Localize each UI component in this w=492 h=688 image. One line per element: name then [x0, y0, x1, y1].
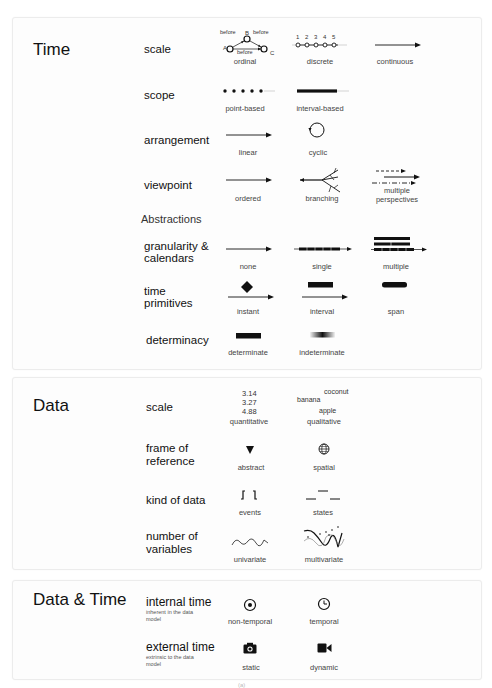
- caption-discrete: discrete: [307, 57, 333, 66]
- dim-label-data-scale: scale: [146, 401, 173, 414]
- quant-value-3: 4.88: [242, 408, 257, 415]
- interval-based-icon: [295, 87, 351, 95]
- discrete-tick-1: 1: [296, 34, 299, 41]
- caption-multiple-granularity: multiple: [383, 262, 409, 271]
- ordered-arrow-icon: [226, 176, 272, 184]
- dim-label-arrangement: arrangement: [144, 134, 209, 147]
- granularity-single-icon: [294, 245, 352, 253]
- internal-time-note-line1: inherent in the data: [146, 609, 193, 616]
- caption-dynamic: dynamic: [310, 663, 338, 672]
- caption-static: static: [242, 663, 260, 672]
- caption-abstract: abstract: [238, 463, 265, 472]
- quant-value-2: 3.27: [242, 399, 257, 406]
- dim-label-internal-time: internal time: [146, 596, 211, 609]
- caption-determinate: determinate: [228, 348, 268, 357]
- caption-non-temporal: non-temporal: [228, 617, 272, 626]
- dim-label-determinacy: determinacy: [146, 334, 209, 347]
- ordinal-edge-label-bottom: before: [237, 49, 253, 56]
- dim-label-granularity-line2: calendars: [144, 252, 194, 265]
- caption-quantitative: quantitative: [230, 417, 268, 426]
- granularity-multiple-icon: [371, 236, 427, 254]
- discrete-tick-3: 3: [314, 34, 317, 41]
- univariate-wave-icon: [231, 534, 269, 548]
- quant-value-1: 3.14: [242, 390, 257, 397]
- caption-point-based: point-based: [225, 104, 264, 113]
- clock-icon: [317, 597, 331, 611]
- caption-events: events: [239, 508, 261, 517]
- section-title-data: Data: [33, 396, 69, 416]
- figure-mark: (a): [238, 682, 245, 688]
- abstract-triangle-icon: [245, 445, 255, 455]
- caption-single: single: [312, 262, 332, 271]
- qual-value-apple: apple: [319, 407, 336, 414]
- ordinal-edge-label-right: before: [253, 29, 269, 36]
- discrete-tick-4: 4: [323, 34, 326, 41]
- external-time-note-line1: extrinsic to the data: [146, 654, 194, 661]
- dim-label-kind-of-data: kind of data: [146, 494, 205, 507]
- dim-label-frame-line1: frame of: [146, 442, 188, 455]
- video-camera-icon: [317, 643, 332, 653]
- ordinal-node-b: B: [245, 30, 249, 37]
- caption-ordinal: ordinal: [234, 57, 257, 66]
- caption-branching: branching: [306, 194, 339, 203]
- dim-label-primitives-line2: primitives: [144, 297, 193, 310]
- dim-label-time-scale: scale: [144, 43, 171, 56]
- point-based-icon: [220, 87, 276, 95]
- caption-spatial: spatial: [313, 463, 335, 472]
- granularity-none-icon: [226, 245, 272, 253]
- caption-continuous: continuous: [377, 57, 413, 66]
- camera-icon: [243, 642, 257, 654]
- discrete-tick-5: 5: [332, 34, 335, 41]
- dim-label-scope: scope: [144, 89, 175, 102]
- branching-icon: [298, 168, 346, 196]
- discrete-tick-2: 2: [305, 34, 308, 41]
- span-icon: [381, 281, 409, 289]
- determinate-icon: [235, 332, 263, 340]
- caption-qualitative: qualitative: [307, 417, 341, 426]
- instant-icon: [226, 280, 274, 300]
- caption-instant: instant: [237, 307, 259, 316]
- dim-label-frame-line2: reference: [146, 455, 195, 468]
- ordinal-edge-label-left: before: [220, 29, 236, 36]
- interval-icon: [300, 281, 348, 300]
- events-icon: [240, 489, 260, 501]
- ordinal-node-c: C: [270, 50, 274, 57]
- cyclic-icon: [307, 120, 327, 140]
- caption-states: states: [313, 508, 333, 517]
- continuous-arrow-icon: [375, 41, 421, 49]
- caption-cyclic: cyclic: [309, 148, 327, 157]
- linear-arrow-icon: [226, 131, 272, 139]
- dim-label-variables-line2: variables: [146, 543, 192, 556]
- caption-univariate: univariate: [234, 555, 267, 564]
- qual-value-banana: banana: [297, 396, 320, 403]
- indeterminate-icon: [309, 331, 337, 339]
- non-temporal-dot-icon: [243, 598, 257, 612]
- section-title-time: Time: [33, 40, 70, 60]
- caption-none: none: [240, 262, 257, 271]
- dim-label-viewpoint: viewpoint: [144, 179, 192, 192]
- qual-value-coconut: coconut: [324, 388, 349, 395]
- caption-multiple: multiple: [384, 186, 410, 195]
- caption-indeterminate: indeterminate: [299, 348, 344, 357]
- caption-interval: interval: [310, 307, 334, 316]
- ordinal-node-a: A: [223, 45, 227, 52]
- abstractions-heading: Abstractions: [141, 213, 202, 225]
- caption-interval-based: interval-based: [296, 104, 343, 113]
- discrete-scale-icon: [292, 34, 352, 50]
- globe-icon: [318, 443, 330, 455]
- multivariate-icon: [302, 525, 346, 551]
- states-icon: [305, 489, 341, 501]
- caption-span: span: [388, 307, 404, 316]
- caption-linear: linear: [239, 148, 257, 157]
- caption-temporal: temporal: [309, 617, 338, 626]
- section-title-data-time: Data & Time: [33, 590, 127, 610]
- caption-perspectives: perspectives: [376, 195, 418, 204]
- dim-label-external-time: external time: [146, 641, 215, 654]
- dim-label-variables-line1: number of: [146, 530, 198, 543]
- internal-time-note-line2: model: [146, 616, 161, 623]
- caption-multivariate: multivariate: [305, 555, 343, 564]
- caption-ordered: ordered: [235, 194, 261, 203]
- external-time-note-line2: model: [146, 661, 161, 668]
